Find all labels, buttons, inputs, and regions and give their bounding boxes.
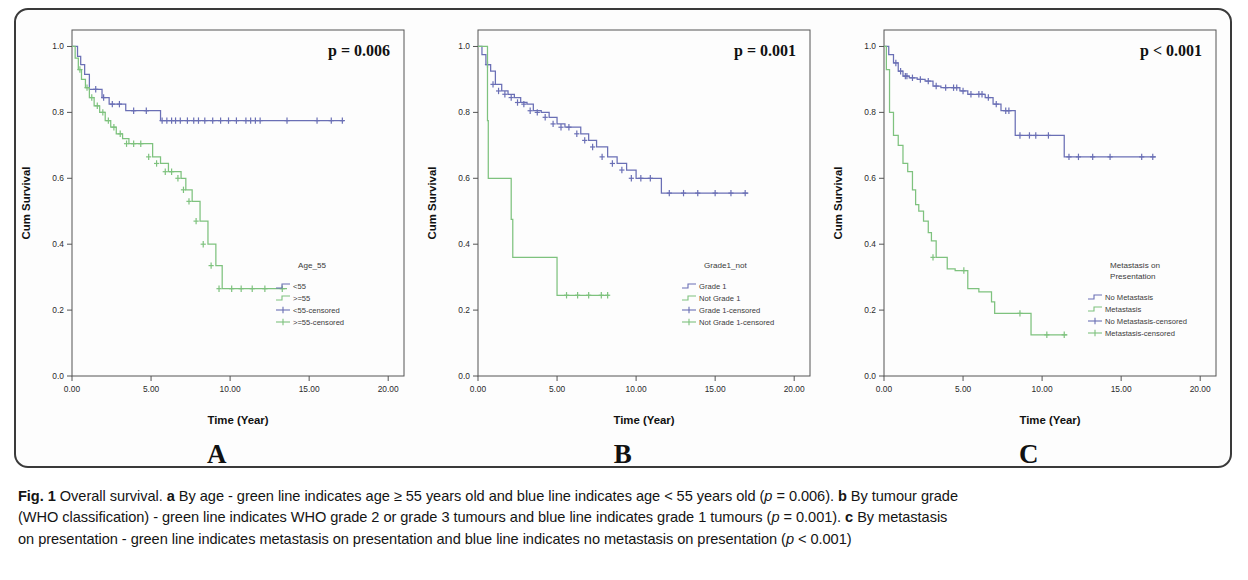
legend-label: Grade 1 — [699, 282, 726, 291]
caption-line: (WHO classification) - green line indica… — [18, 507, 1230, 528]
y-tick-label: 0.4 — [52, 239, 64, 249]
y-tick-label: 0.6 — [864, 173, 876, 183]
y-axis-label: Cum Survival — [426, 167, 438, 240]
y-tick-label: 0.2 — [52, 305, 64, 315]
legend-label: >=55 — [293, 294, 310, 303]
x-tick-label: 20.00 — [1190, 384, 1211, 394]
y-axis-label: Cum Survival — [832, 167, 844, 240]
legend-title: Presentation — [1110, 272, 1155, 281]
legend-title: Grade1_not — [704, 261, 748, 270]
p-value-annotation: p = 0.006 — [328, 42, 390, 60]
y-tick-label: 0.4 — [864, 239, 876, 249]
y-tick-label: 0.4 — [458, 239, 470, 249]
legend-title: Age_55 — [298, 261, 326, 270]
y-tick-label: 0.6 — [52, 173, 64, 183]
legend-label: Metastasis — [1105, 305, 1141, 314]
y-tick-label: 0.6 — [458, 173, 470, 183]
x-tick-label: 0.00 — [470, 384, 487, 394]
x-axis-label: Time (Year) — [1019, 414, 1080, 426]
x-axis-label: Time (Year) — [613, 414, 674, 426]
panel-letter-a: A — [14, 439, 420, 470]
x-tick-label: 5.00 — [549, 384, 566, 394]
y-tick-label: 0.0 — [52, 371, 64, 381]
legend-label: <55 — [293, 282, 306, 291]
panel-c: 0.00.20.40.60.81.00.005.0010.0015.0020.0… — [826, 8, 1232, 468]
p-value-annotation: p < 0.001 — [1140, 42, 1202, 60]
y-tick-label: 1.0 — [52, 41, 64, 51]
p-value-annotation: p = 0.001 — [734, 42, 796, 60]
x-tick-label: 0.00 — [64, 384, 81, 394]
y-tick-label: 1.0 — [458, 41, 470, 51]
y-tick-label: 0.8 — [458, 107, 470, 117]
legend-label: No Metastasis-censored — [1105, 317, 1187, 326]
x-tick-label: 5.00 — [955, 384, 972, 394]
y-tick-label: 0.2 — [864, 305, 876, 315]
plot-area — [72, 30, 404, 376]
panel-letter-b: B — [420, 439, 826, 470]
legend-label: Not Grade 1 — [699, 294, 740, 303]
y-tick-label: 0.8 — [52, 107, 64, 117]
y-tick-label: 0.0 — [458, 371, 470, 381]
panel-a: 0.00.20.40.60.81.00.005.0010.0015.0020.0… — [14, 8, 420, 468]
y-axis-label: Cum Survival — [20, 167, 32, 240]
y-tick-label: 0.2 — [458, 305, 470, 315]
legend-label: Grade 1-censored — [699, 306, 760, 315]
legend-label: >=55-censored — [293, 318, 344, 327]
x-tick-label: 10.00 — [1032, 384, 1053, 394]
figure-caption: Fig. 1 Overall survival. a By age - gree… — [18, 486, 1230, 550]
x-tick-label: 20.00 — [378, 384, 399, 394]
caption-line: on presentation - green line indicates m… — [18, 529, 1230, 550]
x-tick-label: 15.00 — [299, 384, 320, 394]
x-tick-label: 20.00 — [784, 384, 805, 394]
caption-line: Fig. 1 Overall survival. a By age - gree… — [18, 486, 1230, 507]
x-tick-label: 5.00 — [143, 384, 160, 394]
y-tick-label: 0.0 — [864, 371, 876, 381]
x-tick-label: 15.00 — [705, 384, 726, 394]
legend-label: <55-censored — [293, 306, 340, 315]
panel-letter-c: C — [826, 439, 1232, 470]
y-tick-label: 0.8 — [864, 107, 876, 117]
panel-container: 0.00.20.40.60.81.00.005.0010.0015.0020.0… — [14, 8, 1232, 468]
x-tick-label: 15.00 — [1111, 384, 1132, 394]
legend-label: No Metastasis — [1105, 293, 1153, 302]
legend-label: Not Grade 1-censored — [699, 318, 774, 327]
panel-b: 0.00.20.40.60.81.00.005.0010.0015.0020.0… — [420, 8, 826, 468]
x-tick-label: 0.00 — [876, 384, 893, 394]
legend-title: Metastasis on — [1110, 261, 1160, 270]
figure-root: 0.00.20.40.60.81.00.005.0010.0015.0020.0… — [0, 0, 1248, 580]
x-axis-label: Time (Year) — [207, 414, 268, 426]
y-tick-label: 1.0 — [864, 41, 876, 51]
legend-label: Metastasis-censored — [1105, 329, 1175, 338]
x-tick-label: 10.00 — [626, 384, 647, 394]
x-tick-label: 10.00 — [220, 384, 241, 394]
